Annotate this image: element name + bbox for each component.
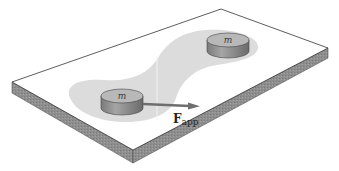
mass-left: m bbox=[101, 89, 143, 115]
mass-right: m bbox=[207, 33, 249, 58]
mass-right-label: m bbox=[224, 35, 233, 45]
force-subscript: app bbox=[182, 117, 199, 127]
physics-diagram: m m Fapp bbox=[0, 0, 339, 171]
mass-left-label: m bbox=[118, 91, 127, 101]
